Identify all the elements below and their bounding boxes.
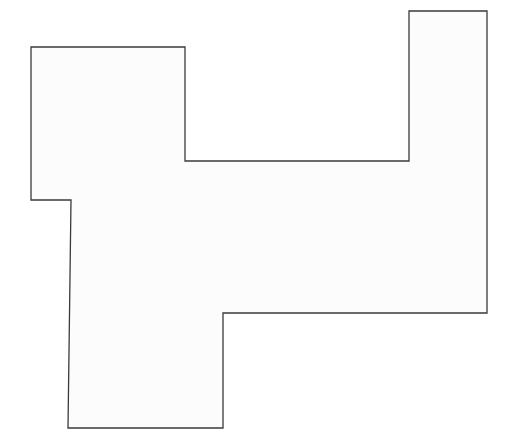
- polygon-figure: [0, 0, 505, 436]
- figure-canvas: [0, 0, 505, 436]
